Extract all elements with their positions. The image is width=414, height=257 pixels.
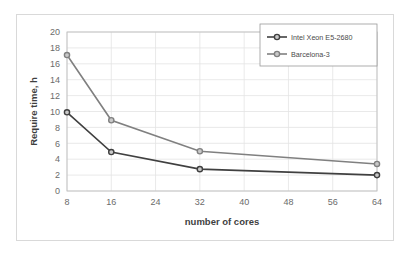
- x-tick-label: 48: [283, 197, 293, 207]
- y-tick-label: 18: [50, 43, 60, 53]
- data-point-marker[interactable]: [64, 110, 69, 115]
- x-tick-label: 8: [64, 197, 69, 207]
- y-tick-label: 16: [50, 59, 60, 69]
- chart-container: 02468101214161820 816243240485664 Requir…: [16, 14, 394, 241]
- y-tick-label: 0: [55, 186, 60, 196]
- x-tick-label: 56: [328, 197, 338, 207]
- data-point-marker[interactable]: [197, 149, 202, 154]
- data-point-marker[interactable]: [109, 149, 114, 154]
- chart-legend[interactable]: Intel Xeon E5-2680Barcelona-3: [260, 24, 377, 66]
- y-tick-label: 8: [55, 123, 60, 133]
- data-point-marker[interactable]: [374, 161, 379, 166]
- data-point-marker[interactable]: [374, 173, 379, 178]
- x-tick-label: 64: [372, 197, 382, 207]
- legend-marker: [274, 51, 279, 56]
- x-tick-label: 40: [239, 197, 249, 207]
- y-axis-tick-labels: 02468101214161820: [50, 27, 60, 196]
- x-tick-label: 24: [151, 197, 161, 207]
- y-tick-label: 2: [55, 170, 60, 180]
- legend-entry-label[interactable]: Barcelona-3: [291, 50, 330, 59]
- y-tick-label: 4: [55, 154, 60, 164]
- data-point-marker[interactable]: [64, 52, 69, 57]
- x-axis-tick-labels: 816243240485664: [64, 197, 382, 207]
- legend-entry-label[interactable]: Intel Xeon E5-2680: [291, 33, 353, 42]
- x-axis-title: number of cores: [185, 216, 259, 227]
- line-chart: 02468101214161820 816243240485664 Requir…: [17, 15, 393, 240]
- y-tick-label: 12: [50, 91, 60, 101]
- series-line: [67, 55, 377, 164]
- y-tick-label: 10: [50, 107, 60, 117]
- y-tick-label: 6: [55, 139, 60, 149]
- y-tick-label: 14: [50, 75, 60, 85]
- legend-box: [260, 24, 377, 66]
- data-point-marker[interactable]: [109, 118, 114, 123]
- y-tick-label: 20: [50, 27, 60, 37]
- x-tick-label: 32: [195, 197, 205, 207]
- y-axis-title: Require time, h: [28, 77, 39, 146]
- x-tick-label: 16: [106, 197, 116, 207]
- data-point-marker[interactable]: [197, 167, 202, 172]
- legend-marker: [274, 34, 279, 39]
